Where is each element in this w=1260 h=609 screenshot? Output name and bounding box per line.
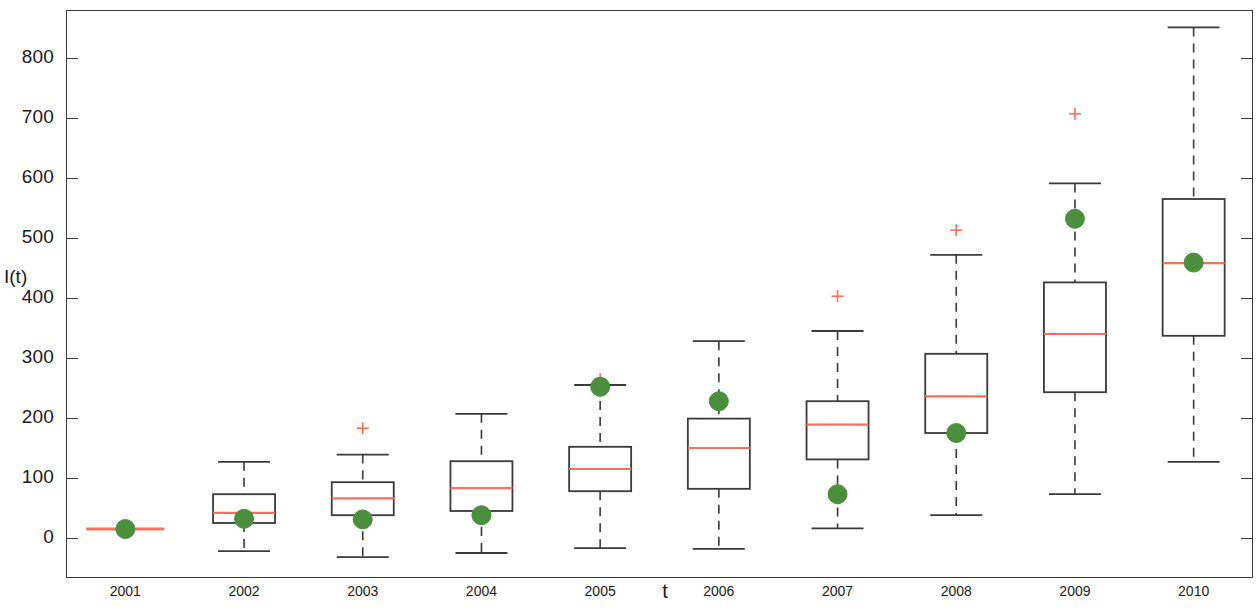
x-tick-label-2004: 2004	[466, 583, 497, 599]
y-tick-label: 100	[0, 466, 54, 488]
boxplot-figure: I(t) 0100200300400500600700800 200120022…	[0, 0, 1260, 609]
y-tick-mark-right	[1241, 418, 1253, 419]
x-tick-label-2008: 2008	[941, 583, 972, 599]
y-tick-mark-right	[1241, 298, 1253, 299]
y-tick-mark	[66, 58, 78, 59]
y-tick-mark	[66, 538, 78, 539]
y-tick-mark-right	[1241, 358, 1253, 359]
y-tick-mark-right	[1241, 538, 1253, 539]
y-tick-mark-right	[1241, 178, 1253, 179]
x-tick-label-2006: 2006	[703, 583, 734, 599]
y-tick-label: 800	[0, 46, 54, 68]
y-tick-label: 300	[0, 346, 54, 368]
y-tick-label: 200	[0, 406, 54, 428]
x-tick-label-2002: 2002	[228, 583, 259, 599]
y-tick-label: 0	[0, 526, 54, 548]
x-tick-label-2010: 2010	[1178, 583, 1209, 599]
x-tick-label-2005: 2005	[585, 583, 616, 599]
y-tick-mark-right	[1241, 238, 1253, 239]
y-tick-label: 500	[0, 226, 54, 248]
plot-area	[66, 10, 1253, 578]
x-tick-label-2009: 2009	[1059, 583, 1090, 599]
y-tick-mark-right	[1241, 58, 1253, 59]
x-tick-label-2001: 2001	[110, 583, 141, 599]
x-tick-label-2007: 2007	[822, 583, 853, 599]
y-tick-mark	[66, 118, 78, 119]
y-tick-mark	[66, 238, 78, 239]
y-tick-mark-right	[1241, 118, 1253, 119]
y-tick-mark	[66, 178, 78, 179]
y-tick-label: 700	[0, 106, 54, 128]
x-tick-label-2003: 2003	[347, 583, 378, 599]
y-tick-label: 400	[0, 286, 54, 308]
y-tick-mark	[66, 298, 78, 299]
y-axis-title: I(t)	[4, 266, 27, 288]
y-tick-mark	[66, 418, 78, 419]
y-tick-label: 600	[0, 166, 54, 188]
x-axis-title: t	[662, 580, 668, 603]
y-tick-mark-right	[1241, 478, 1253, 479]
y-tick-mark	[66, 358, 78, 359]
y-tick-mark	[66, 478, 78, 479]
